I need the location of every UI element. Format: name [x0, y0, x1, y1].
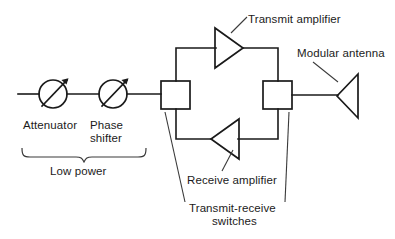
label-transmit-receive-switches-line2: switches: [212, 215, 257, 228]
label-modular-antenna: Modular antenna: [297, 47, 385, 60]
label-receive-amplifier: Receive amplifier: [187, 174, 277, 187]
receive-amplifier-symbol: [211, 119, 239, 159]
wire-switch-left-to-receive-amplifier: [176, 109, 212, 139]
tr-switch-left-symbol: [161, 81, 190, 109]
leader-tr-switches-left: [165, 112, 185, 202]
transmit-amplifier-symbol: [215, 28, 243, 68]
label-transmit-receive-switches-line1: Transmit-receive: [189, 202, 276, 215]
label-transmit-amplifier: Transmit amplifier: [248, 13, 341, 26]
modular-antenna-symbol: [337, 74, 358, 118]
wire-transmit-amplifier-to-switch-right: [243, 48, 278, 81]
label-attenuator: Attenuator: [23, 119, 77, 132]
low-power-brace: [22, 148, 146, 162]
attenuator-symbol: [39, 78, 69, 108]
label-phase-shifter-line2: shifter: [90, 132, 122, 145]
leader-receive-amplifier: [222, 150, 233, 171]
phase-shifter-symbol: [99, 78, 129, 108]
wire-switch-left-to-transmit-amplifier: [176, 48, 216, 81]
leader-tr-switches-right: [285, 112, 289, 202]
wire-receive-amplifier-to-switch-right: [238, 109, 278, 139]
label-low-power: Low power: [50, 165, 107, 178]
leader-transmit-amplifier: [231, 17, 247, 33]
leader-modular-antenna: [313, 62, 338, 82]
label-phase-shifter-line1: Phase: [90, 119, 123, 132]
tr-switch-right-symbol: [263, 81, 292, 109]
block-diagram-figure: Attenuator Phase shifter Low power Trans…: [0, 0, 395, 239]
